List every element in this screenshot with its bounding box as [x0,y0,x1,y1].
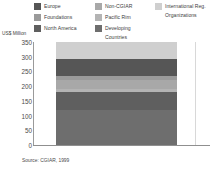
stacked-bar [56,42,177,145]
legend-label-europe: Europe [44,2,61,11]
bar-segment-international-reg-organizations [56,42,177,59]
legend-label-pacific-rim: Pacific Rim [105,13,131,22]
legend-swatch-international-reg-organizations [155,3,162,10]
legend-item-developing-countries: Developing Countries [95,24,153,34]
legend-column-2: Non-CGIAR Pacific Rim Developing Countri… [95,2,153,35]
legend-label-non-cgiar: Non-CGIAR [105,2,132,11]
y-tick-100: 100 [21,112,32,119]
y-tick-150: 150 [21,97,32,104]
bar-segment-developing-countries [56,110,177,145]
chart-legend: Europe Foundations North America Non-CGI… [34,2,218,34]
legend-label-foundations: Foundations [44,13,72,22]
y-tick-350: 350 [21,39,32,46]
legend-item-pacific-rim: Pacific Rim [95,13,153,23]
legend-swatch-developing-countries [95,25,102,32]
bar-segment-non-cgiar [56,80,177,89]
y-axis-title: US$ Million [2,31,26,36]
x-axis-line [33,145,210,146]
chart-figure: Europe Foundations North America Non-CGI… [0,0,218,171]
legend-column-1: Europe Foundations North America [34,2,92,35]
bar-segment-north-america [56,92,177,110]
plot-area: 350 300 250 200 150 100 50 0 [33,42,196,145]
y-tick-200: 200 [21,83,32,90]
bar-segment-europe [56,59,177,76]
legend-swatch-pacific-rim [95,14,102,21]
legend-swatch-north-america [34,25,41,32]
legend-item-north-america: North America [34,24,92,34]
source-note: Source: CGIAR, 1999 [22,158,69,163]
legend-column-3: International Reg. Organizations [155,2,218,22]
legend-item-non-cgiar: Non-CGIAR [95,2,153,12]
legend-swatch-europe [34,3,41,10]
legend-label-developing-countries: Developing Countries [105,24,153,42]
legend-item-international-reg-organizations: International Reg. Organizations [155,2,218,21]
legend-item-foundations: Foundations [34,13,92,23]
legend-item-europe: Europe [34,2,92,12]
y-tick-300: 300 [21,53,32,60]
y-tick-0: 0 [28,142,32,149]
legend-label-north-america: North America [44,24,77,33]
legend-label-international-reg-organizations: International Reg. Organizations [165,2,206,20]
legend-swatch-foundations [34,14,41,21]
y-tick-50: 50 [25,127,32,134]
y-tick-250: 250 [21,68,32,75]
legend-swatch-non-cgiar [95,3,102,10]
